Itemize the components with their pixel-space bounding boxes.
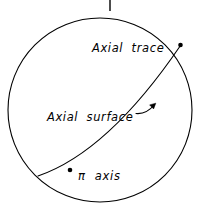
pi-axis-point-marker bbox=[68, 168, 73, 173]
stereonet-figure: Axial trace Axial surface π axis bbox=[0, 0, 213, 218]
label-axial-trace: Axial trace bbox=[91, 41, 164, 55]
label-axial-surface: Axial surface bbox=[46, 110, 133, 124]
label-pi-axis: π axis bbox=[78, 169, 121, 183]
axial-trace-point-marker bbox=[178, 43, 183, 48]
stereonet-canvas: Axial trace Axial surface π axis bbox=[0, 0, 213, 218]
